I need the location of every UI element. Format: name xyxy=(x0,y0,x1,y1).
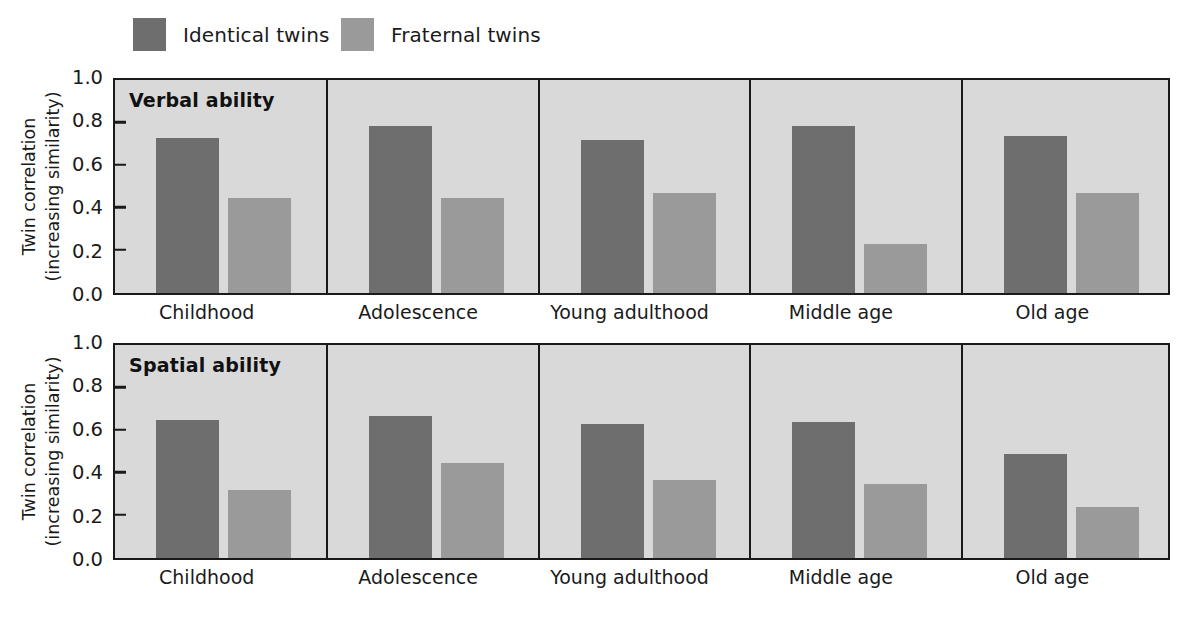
bar-fraternal-twins xyxy=(653,193,716,293)
bar-identical-twins xyxy=(581,140,644,293)
y-axis-tick-label: 0.6 xyxy=(72,420,103,440)
age-group-panel xyxy=(538,80,749,293)
bar-fraternal-twins xyxy=(228,198,291,293)
bar-fraternal-twins xyxy=(1076,193,1139,293)
y-axis-tick-label: 0.4 xyxy=(72,463,103,483)
legend-label: Fraternal twins xyxy=(391,25,541,45)
plot-area: Spatial ability xyxy=(113,343,1170,560)
y-axis-tick-label: 0.2 xyxy=(72,507,103,527)
x-axis-label: Adolescence xyxy=(358,568,478,587)
bar-identical-twins xyxy=(792,126,855,293)
bar-identical-twins xyxy=(1004,454,1067,558)
panel-title: Verbal ability xyxy=(129,89,275,111)
legend-label: Identical twins xyxy=(183,25,330,45)
bar-fraternal-twins xyxy=(441,463,504,558)
bar-fraternal-twins xyxy=(864,484,927,558)
bar-fraternal-twins xyxy=(228,490,291,558)
age-group-panel xyxy=(326,80,537,293)
x-axis-label: Adolescence xyxy=(358,303,478,322)
bar-fraternal-twins xyxy=(864,244,927,293)
age-group-panel xyxy=(538,345,749,558)
x-axis-label: Childhood xyxy=(159,568,254,587)
bar-identical-twins xyxy=(1004,136,1067,293)
bar-identical-twins xyxy=(369,416,432,558)
y-axis-tick-label: 0.0 xyxy=(72,550,103,570)
y-axis-label-line1: Twin correlation xyxy=(18,78,42,295)
age-group-panel xyxy=(749,345,960,558)
bar-identical-twins xyxy=(581,424,644,558)
legend-swatch-icon xyxy=(133,18,166,51)
chart-legend: Identical twinsFraternal twins xyxy=(0,0,1184,70)
age-group-panel xyxy=(961,80,1172,293)
age-group-panel: Verbal ability xyxy=(115,80,326,293)
age-group-panel: Spatial ability xyxy=(115,345,326,558)
legend-swatch-icon xyxy=(341,18,374,51)
bar-identical-twins xyxy=(156,138,219,293)
age-group-panel xyxy=(749,80,960,293)
figure-root: Identical twinsFraternal twins Twin corr… xyxy=(0,0,1184,624)
y-axis-tick-label: 0.8 xyxy=(72,377,103,397)
age-group-panel xyxy=(961,345,1172,558)
y-axis-label-line1: Twin correlation xyxy=(18,343,42,560)
bar-identical-twins xyxy=(156,420,219,558)
plot-area: Verbal ability xyxy=(113,78,1170,295)
x-axis-label: Old age xyxy=(1015,303,1089,322)
bar-identical-twins xyxy=(792,422,855,558)
bar-fraternal-twins xyxy=(653,480,716,558)
age-group-panel xyxy=(326,345,537,558)
legend-item-fraternal-twins[interactable]: Fraternal twins xyxy=(341,18,541,51)
legend-item-identical-twins[interactable]: Identical twins xyxy=(133,18,330,51)
x-axis-label: Middle age xyxy=(789,568,893,587)
x-axis-label: Old age xyxy=(1015,568,1089,587)
bar-identical-twins xyxy=(369,126,432,293)
x-axis-label: Young adulthood xyxy=(550,568,709,587)
bar-fraternal-twins xyxy=(1076,507,1139,558)
panel-title: Spatial ability xyxy=(129,354,281,376)
x-axis-label: Middle age xyxy=(789,303,893,322)
x-axis-label: Childhood xyxy=(159,303,254,322)
x-axis-label: Young adulthood xyxy=(550,303,709,322)
y-axis-tick-label: 1.0 xyxy=(72,333,103,353)
y-axis-tick-labels: 1.00.80.60.40.20.0 xyxy=(57,0,103,624)
bar-fraternal-twins xyxy=(441,198,504,293)
